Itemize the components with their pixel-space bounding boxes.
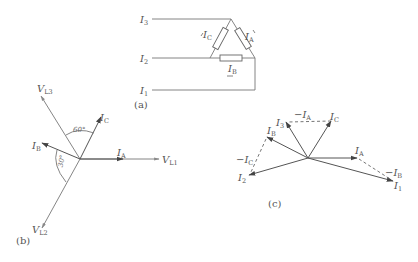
label-c-neg-ic: −IC xyxy=(236,154,253,167)
label-c-ia: IA xyxy=(354,145,364,158)
label-vl1: VL1 xyxy=(162,154,178,167)
resistor-b xyxy=(220,55,242,61)
phasor-c-i1 xyxy=(308,158,393,181)
resistor-c xyxy=(213,27,229,49)
label-ic-resistor: IC xyxy=(202,29,212,42)
label-c-ib: IB xyxy=(266,125,276,138)
phasor-c-ic xyxy=(308,121,331,158)
three-phase-delta-diagram: I3 I2 I1 IC IA IB (a) 60° 30° VL1 VL2 VL… xyxy=(0,0,418,262)
phasor-c-i2 xyxy=(249,158,308,175)
label-c-neg-ia: −IA xyxy=(294,109,311,122)
label-c-neg-ib: −IB xyxy=(385,167,402,180)
label-c-i2: I2 xyxy=(237,172,246,185)
label-i2: I2 xyxy=(139,53,148,66)
panel-b-phasor: 60° 30° VL1 VL2 VL3 IA IB IC (b) xyxy=(16,83,178,246)
phasor-ic xyxy=(80,117,101,159)
label-c-i1: I1 xyxy=(393,180,402,193)
caption-c: (c) xyxy=(268,198,282,209)
label-ib: IB xyxy=(31,140,41,153)
label-vl3: VL3 xyxy=(37,83,53,96)
phasor-vl2 xyxy=(42,159,80,228)
phasor-c-neg-ic xyxy=(251,139,266,172)
panel-c-phasor: IA IB IC I1 I2 I3 −IA −IB −IC (c) xyxy=(236,109,402,209)
label-ia: IA xyxy=(116,147,126,160)
angle-label-30: 30° xyxy=(57,154,67,168)
label-ib-resistor: IB xyxy=(227,63,237,76)
current-arrow-ia xyxy=(253,30,255,33)
label-c-i3: I3 xyxy=(275,117,284,130)
angle-label-60: 60° xyxy=(73,126,85,134)
label-i1: I1 xyxy=(139,85,148,98)
label-ic: IC xyxy=(99,112,109,125)
panel-a-circuit: I3 I2 I1 IC IA IB (a) xyxy=(134,14,255,110)
caption-a: (a) xyxy=(134,99,148,110)
caption-b: (b) xyxy=(16,235,30,246)
label-i3: I3 xyxy=(139,14,148,27)
label-vl2: VL2 xyxy=(32,224,48,237)
